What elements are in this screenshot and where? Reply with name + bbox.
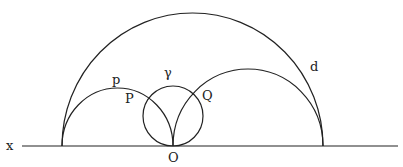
label-gamma: γ [164,65,172,80]
label-Q: Q [202,88,213,103]
label-O: O [168,150,179,165]
label-P: P [125,91,134,106]
label-p: p [112,72,120,87]
arc-large [62,13,323,146]
label-d: d [310,59,318,74]
diagram: x O p P γ Q d [0,0,403,167]
label-x: x [6,138,14,153]
arc-d [173,69,323,146]
arc-p [62,88,173,146]
